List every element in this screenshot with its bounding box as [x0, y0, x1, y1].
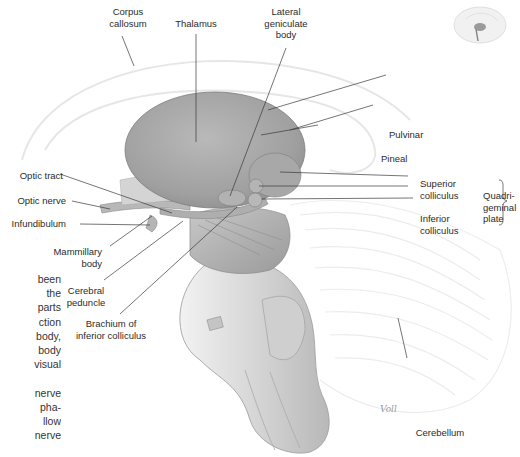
text-line: body — [0, 343, 61, 357]
label-line: Thalamus — [166, 18, 226, 30]
label-line: geniculate — [254, 18, 318, 30]
lateral-geniculate-shape — [218, 190, 246, 206]
text-line: the — [0, 286, 61, 300]
label-thalamus: Thalamus — [166, 18, 226, 30]
label-line: Cerebellum — [400, 427, 480, 439]
text-line: llow — [0, 414, 61, 428]
label-line: peduncle — [60, 297, 112, 309]
pons-medulla — [180, 258, 329, 453]
label-line: callosum — [96, 18, 160, 30]
text-line: been — [0, 272, 61, 286]
label-line: Pulvinar — [389, 129, 423, 141]
label-line: Optic tract — [0, 170, 63, 182]
label-line: Cerebral — [60, 285, 112, 297]
label-inferior-colliculus: Inferior colliculus — [420, 213, 459, 236]
label-line: inferior colliculus — [66, 330, 156, 342]
label-brachium-inferior-colliculus: Brachium of inferior colliculus — [66, 318, 156, 341]
label-line: colliculus — [420, 190, 459, 202]
inferior-colliculus-shape — [248, 193, 262, 207]
label-line: body — [40, 258, 102, 270]
label-line: plate — [483, 213, 516, 225]
label-line: Optic nerve — [0, 195, 66, 207]
label-optic-tract: Optic tract — [0, 170, 63, 182]
label-line: colliculus — [420, 225, 459, 237]
label-line: body — [254, 29, 318, 41]
label-infundibulum: Infundibulum — [0, 218, 66, 230]
text-line: parts — [0, 300, 61, 314]
text-line: nerve — [0, 386, 61, 400]
label-line: Inferior — [420, 213, 459, 225]
label-cerebellum: Cerebellum — [400, 427, 480, 439]
label-line: Lateral — [254, 6, 318, 18]
text-line: visual — [0, 357, 61, 371]
label-pineal: Pineal — [381, 153, 407, 165]
label-corpus-callosum: Corpus callosum — [96, 6, 160, 29]
cropped-body-text: been the parts ction body, body visual n… — [0, 272, 61, 442]
label-line: Quadri- — [483, 190, 516, 202]
label-line: Infundibulum — [0, 218, 66, 230]
text-blank-line — [0, 371, 61, 385]
label-line: Pineal — [381, 153, 407, 165]
label-line: geminal — [483, 202, 516, 214]
text-line: ction — [0, 315, 61, 329]
label-lateral-geniculate-body: Lateral geniculate body — [254, 6, 318, 41]
label-quadrigeminal-plate: Quadri- geminal plate — [483, 190, 516, 225]
artist-signature: Voll — [380, 404, 397, 414]
label-optic-nerve: Optic nerve — [0, 195, 66, 207]
text-line: pha- — [0, 400, 61, 414]
infundibulum-shape — [146, 215, 157, 232]
label-cerebral-peduncle: Cerebral peduncle — [60, 285, 112, 308]
label-pulvinar: Pulvinar — [389, 129, 423, 141]
label-line: Superior — [420, 178, 459, 190]
label-superior-colliculus: Superior colliculus — [420, 178, 459, 201]
text-line: body, — [0, 329, 61, 343]
cerebellum-outline — [290, 201, 511, 413]
brain-locator-thumbnail — [454, 7, 506, 43]
text-line: nerve — [0, 428, 61, 442]
label-line: Brachium of — [66, 318, 156, 330]
label-line: Corpus — [96, 6, 160, 18]
label-line: Mammillary — [40, 246, 102, 258]
label-mammillary-body: Mammillary body — [40, 246, 102, 269]
